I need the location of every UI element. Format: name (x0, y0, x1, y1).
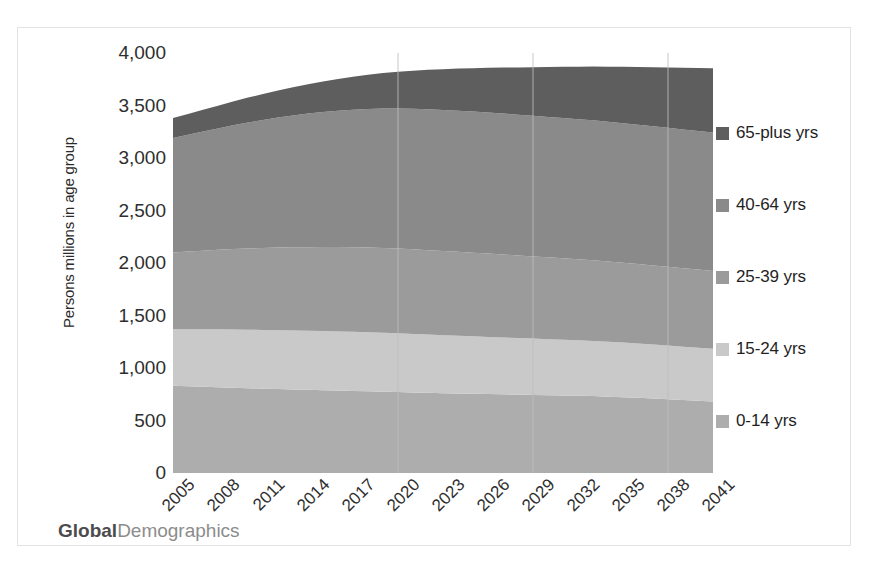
legend-item-label: 25-39 yrs (736, 267, 806, 287)
legend-swatch-icon (716, 415, 729, 428)
legend-item[interactable]: 15-24 yrs (716, 339, 806, 359)
x-tick-label: 2026 (460, 475, 514, 529)
chart-legend: 65-plus yrs40-64 yrs25-39 yrs15-24 yrs0-… (716, 123, 856, 453)
x-tick-label: 2029 (505, 475, 559, 529)
y-tick-label: 2,000 (56, 252, 166, 274)
stacked-area-plot (173, 53, 713, 473)
area-band-40-64-yrs (173, 109, 713, 271)
legend-item[interactable]: 65-plus yrs (716, 123, 818, 143)
legend-swatch-icon (716, 127, 729, 140)
y-tick-label: 3,500 (56, 95, 166, 117)
y-tick-label: 0 (56, 462, 166, 484)
y-tick-label: 1,500 (56, 305, 166, 327)
y-tick-label: 3,000 (56, 147, 166, 169)
y-tick-label: 2,500 (56, 200, 166, 222)
watermark-bold: Global (58, 520, 117, 541)
chart-frame: Persons millions in age group 05001,0001… (17, 27, 851, 546)
y-tick-label: 1,000 (56, 357, 166, 379)
legend-item-label: 40-64 yrs (736, 195, 806, 215)
legend-swatch-icon (716, 199, 729, 212)
y-axis-title: Persons millions in age group (60, 83, 77, 383)
x-tick-label: 2017 (325, 475, 379, 529)
legend-item[interactable]: 40-64 yrs (716, 195, 806, 215)
y-tick-label: 4,000 (56, 42, 166, 64)
legend-swatch-icon (716, 343, 729, 356)
watermark: GlobalDemographics (58, 520, 240, 542)
area-band-0-14-yrs (173, 386, 713, 473)
x-tick-label: 2014 (280, 475, 334, 529)
legend-item-label: 0-14 yrs (736, 411, 797, 431)
y-tick-label: 500 (56, 410, 166, 432)
legend-item[interactable]: 25-39 yrs (716, 267, 806, 287)
x-tick-label: 2020 (370, 475, 424, 529)
x-tick-label: 2032 (550, 475, 604, 529)
legend-item[interactable]: 0-14 yrs (716, 411, 797, 431)
x-axis-tick-labels: 2005200820112014201720202023202620292032… (173, 475, 733, 545)
legend-swatch-icon (716, 271, 729, 284)
legend-item-label: 65-plus yrs (736, 123, 818, 143)
x-tick-label: 2041 (685, 475, 739, 529)
x-tick-label: 2035 (595, 475, 649, 529)
legend-item-label: 15-24 yrs (736, 339, 806, 359)
x-tick-label: 2023 (415, 475, 469, 529)
x-tick-label: 2038 (640, 475, 694, 529)
plot-area (173, 53, 713, 473)
watermark-light: Demographics (117, 520, 240, 541)
x-tick-label: 2011 (235, 475, 289, 529)
